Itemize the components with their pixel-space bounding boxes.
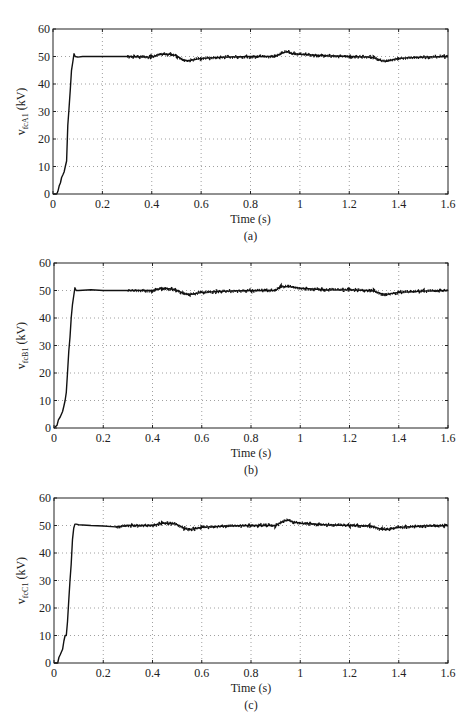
y-tick-label: 40 [39, 546, 51, 560]
x-tick-label: 1.2 [342, 197, 357, 211]
x-tick-label: 1 [297, 431, 303, 445]
y-tick-label: 60 [39, 256, 51, 270]
x-tick-label: 0.8 [243, 197, 258, 211]
x-tick-label: 0.6 [194, 197, 209, 211]
data-series-line [53, 52, 448, 194]
x-tick-label: 0 [51, 666, 57, 680]
y-tick-label: 30 [39, 574, 51, 588]
y-tick-label: 20 [38, 132, 50, 146]
x-tick-label: 0.2 [95, 197, 110, 211]
y-tick-label: 60 [38, 22, 50, 36]
panel-label: (a) [244, 229, 257, 243]
y-tick-label: 30 [38, 105, 50, 119]
x-tick-label: 1.4 [391, 197, 406, 211]
x-tick-label: 0.6 [194, 666, 209, 680]
x-axis-label: Time (s) [230, 212, 271, 226]
figure: 00.20.40.60.811.21.41.60102030405060Time… [0, 0, 475, 727]
x-tick-label: 1.6 [441, 666, 456, 680]
x-tick-label: 1.6 [441, 197, 456, 211]
x-axis-label: Time (s) [231, 681, 272, 695]
y-axis-label: vfcC1 (kV) [14, 557, 30, 604]
y-tick-label: 10 [39, 629, 51, 643]
x-tick-label: 0.2 [96, 431, 111, 445]
x-tick-label: 0.4 [144, 197, 159, 211]
y-tick-label: 20 [39, 601, 51, 615]
x-tick-label: 0 [51, 431, 57, 445]
y-tick-label: 10 [38, 160, 50, 174]
data-series-ripple [116, 519, 448, 530]
chart-panel-0: 00.20.40.60.811.21.41.60102030405060Time… [14, 22, 456, 243]
x-tick-label: 1.6 [441, 431, 456, 445]
x-tick-label: 0.6 [194, 431, 209, 445]
x-tick-label: 0.4 [145, 431, 160, 445]
data-series-line [54, 520, 448, 663]
x-tick-label: 0.4 [145, 666, 160, 680]
x-tick-label: 1.2 [342, 431, 357, 445]
x-tick-label: 1 [297, 666, 303, 680]
y-axis-label: vfcB1 (kV) [14, 322, 30, 369]
y-tick-label: 40 [39, 311, 51, 325]
x-tick-label: 1.2 [342, 666, 357, 680]
x-tick-label: 0.2 [96, 666, 111, 680]
y-tick-label: 50 [38, 50, 50, 64]
y-tick-label: 50 [39, 284, 51, 298]
y-tick-label: 20 [39, 366, 51, 380]
y-tick-label: 0 [44, 187, 50, 201]
y-tick-label: 0 [45, 656, 51, 670]
y-tick-label: 10 [39, 394, 51, 408]
data-series-ripple [127, 51, 448, 62]
x-axis-label: Time (s) [231, 446, 272, 460]
x-tick-label: 0.8 [244, 666, 259, 680]
panel-label: (b) [244, 463, 258, 477]
x-tick-label: 1 [297, 197, 303, 211]
chart-panel-1: 00.20.40.60.811.21.41.60102030405060Time… [14, 256, 456, 477]
y-tick-label: 50 [39, 519, 51, 533]
chart-panel-2: 00.20.40.60.811.21.41.60102030405060Time… [14, 491, 456, 712]
y-tick-label: 30 [39, 339, 51, 353]
x-tick-label: 0 [50, 197, 56, 211]
y-tick-label: 0 [45, 421, 51, 435]
y-tick-label: 40 [38, 77, 50, 91]
x-tick-label: 0.8 [244, 431, 259, 445]
y-tick-label: 60 [39, 491, 51, 505]
x-tick-label: 1.4 [391, 666, 406, 680]
panel-label: (c) [244, 698, 257, 712]
x-tick-label: 1.4 [391, 431, 406, 445]
y-axis-label: vfcA1 (kV) [14, 88, 30, 136]
